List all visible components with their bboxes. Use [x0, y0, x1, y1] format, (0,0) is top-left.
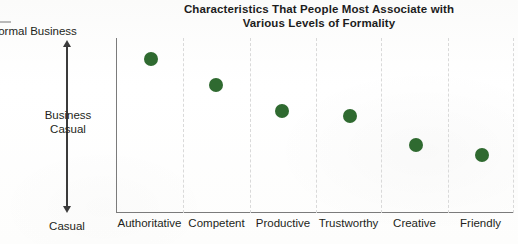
- x-axis-label: Competent: [188, 216, 244, 231]
- chart-figure: Characteristics That People Most Associa…: [0, 0, 518, 244]
- y-axis-label-middle-line-1: Business: [12, 109, 124, 123]
- x-axis-label: Trustworthy: [319, 216, 379, 231]
- x-axis-label: Authoritative: [118, 216, 182, 231]
- y-axis-line: [116, 38, 117, 213]
- y-axis-label-bottom: Casual: [27, 220, 107, 234]
- gridline: [316, 38, 318, 213]
- x-axis-line: [116, 212, 514, 213]
- x-axis-label: Creative: [393, 216, 436, 231]
- data-point: [343, 109, 357, 123]
- y-axis-label-middle: Business Casual: [12, 109, 124, 136]
- gridline: [448, 38, 450, 213]
- x-axis-label: Productive: [256, 216, 310, 231]
- chart-title-line-1: Characteristics That People Most Associa…: [184, 3, 454, 15]
- data-point: [409, 138, 423, 152]
- x-axis-label: Friendly: [460, 216, 501, 231]
- x-axis-label-group: AuthoritativeCompetentProductiveTrustwor…: [116, 216, 518, 236]
- y-axis-label-top: Formal Business: [0, 25, 104, 39]
- chart-title-line-2: Various Levels of Formality: [129, 16, 509, 30]
- gridline: [183, 38, 185, 213]
- plot-area: [116, 38, 514, 213]
- scan-artifact-mark: [0, 21, 11, 23]
- data-point: [475, 148, 489, 162]
- arrow-down-head-icon: [63, 206, 71, 213]
- data-point: [144, 52, 158, 66]
- gridline: [381, 38, 383, 213]
- gridline: [250, 38, 252, 213]
- chart-title: Characteristics That People Most Associa…: [129, 2, 509, 30]
- y-axis-label-middle-line-2: Casual: [12, 123, 124, 137]
- gridline: [513, 38, 515, 213]
- data-point: [275, 104, 289, 118]
- data-point: [209, 78, 223, 92]
